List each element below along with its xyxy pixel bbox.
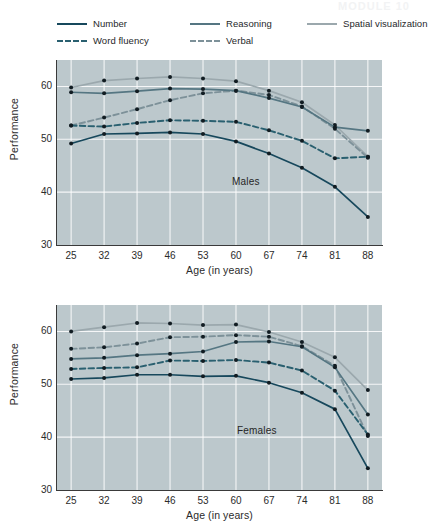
data-point-males-reasoning-39: [135, 89, 139, 93]
data-point-males-word-fluency-46: [168, 118, 172, 122]
data-point-females-reasoning-46: [168, 352, 172, 356]
legend-item-word-fluency: Word fluency: [57, 35, 149, 46]
data-point-males-number-60: [234, 139, 238, 143]
data-point-females-number-60: [234, 374, 238, 378]
data-point-females-reasoning-39: [135, 353, 139, 357]
y-axis-label-holder-females: Performance: [0, 300, 22, 495]
data-point-males-word-fluency-25: [69, 124, 73, 128]
data-point-males-reasoning-60: [234, 89, 238, 93]
legend-label-spatial-visualization: Spatial visualization: [343, 18, 428, 29]
data-point-females-reasoning-67: [267, 339, 271, 343]
x-axis-label-females: Age (in years): [57, 509, 382, 521]
legend-item-reasoning: Reasoning: [190, 18, 272, 29]
data-point-males-number-32: [102, 132, 106, 136]
data-point-males-spatial-visualization-53: [201, 77, 205, 81]
legend-swatch-verbal: [190, 35, 220, 46]
data-point-females-word-fluency-60: [234, 358, 238, 362]
plot-svg-males: [57, 60, 382, 245]
data-point-males-spatial-visualization-74: [300, 100, 304, 104]
y-axis-label-females: Performance: [8, 314, 20, 434]
data-point-females-verbal-32: [102, 345, 106, 349]
data-point-females-verbal-39: [135, 342, 139, 346]
y-tick-females-60: 60: [30, 326, 52, 336]
plot-svg-females: [57, 305, 382, 490]
data-point-males-word-fluency-74: [300, 139, 304, 143]
x-tick-females-74: 74: [289, 495, 315, 507]
data-point-females-word-fluency-32: [102, 366, 106, 370]
data-point-females-reasoning-32: [102, 356, 106, 360]
data-point-females-number-39: [135, 373, 139, 377]
series-line-males-spatial-visualization: [71, 77, 368, 157]
y-tick-males-40: 40: [30, 187, 52, 197]
data-point-females-number-67: [267, 381, 271, 385]
data-point-females-number-25: [69, 377, 73, 381]
series-line-females-number: [71, 375, 368, 469]
gridlines-males: [57, 60, 382, 245]
data-point-males-reasoning-25: [69, 90, 73, 94]
y-axis-label-males: Performance: [8, 69, 20, 189]
data-point-females-spatial-visualization-60: [234, 323, 238, 327]
x-axis-line-females: [56, 490, 383, 491]
legend-label-reasoning: Reasoning: [226, 18, 272, 29]
data-point-males-spatial-visualization-46: [168, 75, 172, 79]
data-point-females-number-46: [168, 373, 172, 377]
data-point-females-word-fluency-67: [267, 361, 271, 365]
data-point-females-verbal-53: [201, 335, 205, 339]
data-point-females-word-fluency-25: [69, 367, 73, 371]
data-point-females-word-fluency-74: [300, 369, 304, 373]
legend-item-verbal: Verbal: [190, 35, 253, 46]
data-point-females-reasoning-88: [366, 412, 370, 416]
data-point-females-reasoning-60: [234, 340, 238, 344]
x-tick-females-39: 39: [124, 495, 150, 507]
data-point-males-number-67: [267, 152, 271, 156]
data-point-males-verbal-39: [135, 107, 139, 111]
data-point-males-number-46: [168, 130, 172, 134]
series-line-females-word-fluency: [71, 360, 368, 435]
legend-swatch-reasoning: [190, 18, 220, 29]
data-point-females-spatial-visualization-46: [168, 322, 172, 326]
data-point-females-number-74: [300, 391, 304, 395]
panel-tag-males: Males: [232, 176, 260, 187]
data-point-males-number-25: [69, 142, 73, 146]
data-point-males-reasoning-67: [267, 96, 271, 100]
y-tick-males-60: 60: [30, 81, 52, 91]
x-tick-females-67: 67: [256, 495, 282, 507]
data-point-females-verbal-46: [168, 335, 172, 339]
page-header-artifact: MODULE 10 Adult Development and Aging: [300, 0, 414, 13]
data-point-males-number-81: [333, 185, 337, 189]
data-point-males-spatial-visualization-60: [234, 79, 238, 83]
x-axis-line-males: [56, 245, 383, 246]
data-point-females-verbal-60: [234, 333, 238, 337]
y-tick-females-30: 30: [30, 485, 52, 495]
data-point-females-spatial-visualization-67: [267, 330, 271, 334]
data-point-females-spatial-visualization-88: [366, 388, 370, 392]
plot-area-females: Females: [57, 305, 382, 490]
data-point-females-number-53: [201, 374, 205, 378]
x-tick-males-39: 39: [124, 250, 150, 262]
chart-legend: Number Reasoning Spatial visualization W…: [57, 18, 409, 52]
data-point-males-reasoning-53: [201, 87, 205, 91]
data-point-females-spatial-visualization-53: [201, 323, 205, 327]
y-tick-males-30: 30: [30, 240, 52, 250]
x-tick-males-32: 32: [91, 250, 117, 262]
x-tick-females-53: 53: [190, 495, 216, 507]
data-point-males-word-fluency-60: [234, 120, 238, 124]
data-point-females-spatial-visualization-74: [300, 340, 304, 344]
data-point-females-word-fluency-39: [135, 365, 139, 369]
x-tick-males-81: 81: [322, 250, 348, 262]
legend-label-verbal: Verbal: [226, 35, 253, 46]
series-line-females-verbal: [71, 335, 368, 436]
chart-panel-females: Performance 30405060 Females 25323946536…: [0, 300, 414, 531]
data-point-females-spatial-visualization-81: [333, 355, 337, 359]
legend-label-word-fluency: Word fluency: [93, 35, 149, 46]
data-point-males-reasoning-46: [168, 87, 172, 91]
data-point-males-verbal-32: [102, 116, 106, 120]
x-tick-males-25: 25: [58, 250, 84, 262]
data-point-males-word-fluency-53: [201, 119, 205, 123]
data-point-males-word-fluency-39: [135, 121, 139, 125]
data-point-females-reasoning-74: [300, 345, 304, 349]
data-point-females-reasoning-25: [69, 357, 73, 361]
data-point-males-reasoning-32: [102, 91, 106, 95]
data-point-males-spatial-visualization-32: [102, 79, 106, 83]
